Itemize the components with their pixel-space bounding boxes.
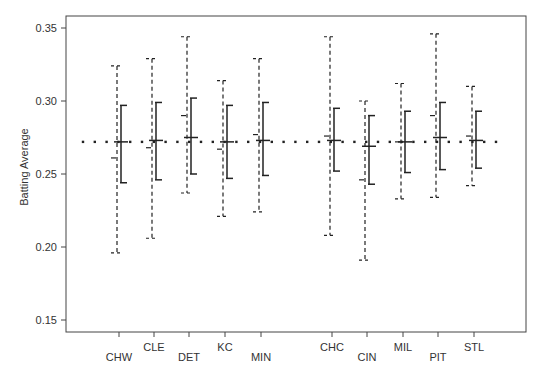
reference-dot [247, 141, 249, 143]
reference-dot [448, 141, 450, 143]
reference-dot [294, 141, 296, 143]
x-tick-label: MIN [251, 351, 271, 363]
reference-dot [82, 141, 84, 143]
error-bar-kc [217, 81, 234, 217]
error-bar-mil [395, 83, 412, 198]
error-bar-min [253, 59, 270, 212]
x-tick-label: CHW [106, 351, 133, 363]
reference-dot [188, 141, 190, 143]
x-tick-label: CIN [358, 351, 377, 363]
reference-dot [212, 141, 214, 143]
y-tick-label: 0.15 [36, 314, 57, 326]
axes [61, 16, 526, 337]
y-tick-label: 0.30 [36, 95, 57, 107]
x-tick-labels: CHWCLEDETKCMINCHCCINMILPITSTL [106, 341, 484, 363]
reference-dot [389, 141, 391, 143]
y-tick-label: 0.35 [36, 22, 57, 34]
reference-dot [459, 141, 461, 143]
y-tick-label: 0.25 [36, 168, 57, 180]
x-tick-label: KC [217, 341, 232, 353]
x-tick-label: CLE [143, 341, 164, 353]
reference-dot [176, 141, 178, 143]
reference-line [82, 141, 497, 143]
reference-dot [353, 141, 355, 143]
reference-dot [164, 141, 166, 143]
reference-dot [282, 141, 284, 143]
x-tick-label: DET [178, 351, 200, 363]
y-axis-label: Batting Average [18, 128, 30, 205]
y-tick-labels: 0.150.200.250.300.35 [36, 22, 57, 326]
error-bar-det [181, 37, 198, 193]
error-bar-cin [359, 101, 376, 260]
reference-dot [306, 141, 308, 143]
x-tick-label: CHC [320, 341, 344, 353]
reference-dot [365, 141, 367, 143]
reference-dot [318, 141, 320, 143]
y-tick-label: 0.20 [36, 241, 57, 253]
reference-dot [200, 141, 202, 143]
x-tick-label: MIL [394, 341, 412, 353]
reference-dot [412, 141, 414, 143]
error-bar-cle [146, 59, 163, 239]
reference-dot [424, 141, 426, 143]
error-bars [111, 34, 483, 260]
plot-frame [66, 16, 526, 332]
reference-dot [141, 141, 143, 143]
reference-dot [271, 141, 273, 143]
x-tick-label: PIT [429, 351, 446, 363]
reference-dot [377, 141, 379, 143]
reference-dot [129, 141, 131, 143]
reference-dot [94, 141, 96, 143]
error-bar-stl [466, 86, 483, 185]
error-bar-chc [324, 37, 341, 236]
error-bar-pit [430, 34, 447, 198]
reference-dot [235, 141, 237, 143]
x-tick-label: STL [464, 341, 484, 353]
error-bar-chw [111, 66, 128, 253]
error-bar-chart: CHWCLEDETKCMINCHCCINMILPITSTL 0.150.200.… [0, 0, 540, 376]
reference-dot [495, 141, 497, 143]
reference-dot [105, 141, 107, 143]
reference-dot [341, 141, 343, 143]
reference-dot [483, 141, 485, 143]
